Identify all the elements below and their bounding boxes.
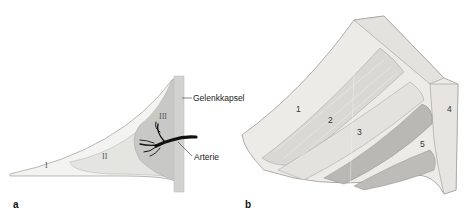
- zone-i-label: I: [45, 161, 48, 170]
- layer-4-label: 4: [447, 104, 452, 114]
- layer-1-label: 1: [296, 104, 301, 114]
- panel-b-letter: b: [245, 199, 251, 210]
- artery-annotation: Arterie: [194, 152, 219, 162]
- panel-a-meniscus-zones: I II III Gelenkkapsel Arterie a: [0, 0, 234, 213]
- meniscus-cross-section-illustration: [234, 0, 468, 213]
- panel-b-meniscus-3d-section: 1 2 3 4 5 b: [234, 0, 468, 213]
- zone-iii-label: III: [159, 112, 167, 121]
- layer-5-label: 5: [420, 139, 425, 149]
- joint-capsule-bar: [174, 76, 184, 192]
- meniscus-zone-diagram: [0, 0, 234, 213]
- panel-a-letter: a: [13, 199, 19, 210]
- zone-ii-label: II: [102, 152, 107, 161]
- layer-2-label: 2: [328, 115, 333, 125]
- layer-3-label: 3: [357, 127, 362, 137]
